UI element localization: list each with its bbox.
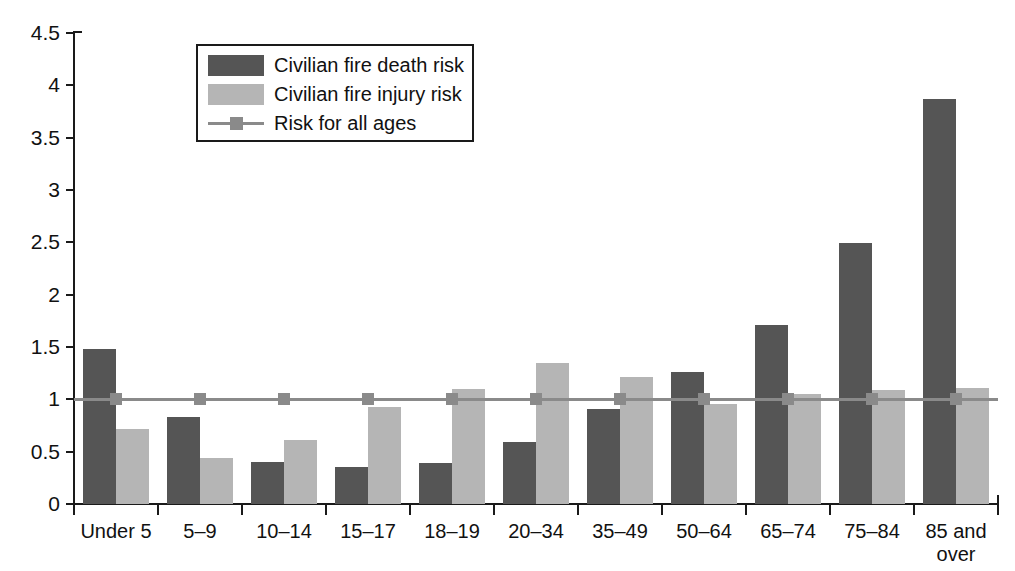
x-axis-tick <box>493 504 495 515</box>
bar-death-risk <box>251 462 284 504</box>
legend-label-all-ages: Risk for all ages <box>274 110 416 136</box>
bar-injury-risk <box>452 389 485 504</box>
x-axis-tick <box>325 504 327 515</box>
y-axis-tick-label: 4.5 <box>0 22 60 43</box>
reference-line-marker <box>362 393 374 405</box>
bar-injury-risk <box>872 390 905 504</box>
legend-label-injury-risk: Civilian fire injury risk <box>274 81 462 107</box>
reference-line-marker <box>698 393 710 405</box>
bar-injury-risk <box>284 440 317 504</box>
reference-line-marker <box>194 393 206 405</box>
bar-death-risk <box>671 372 704 504</box>
x-axis-tick <box>73 504 75 515</box>
y-axis-tick-label: 3 <box>0 179 60 200</box>
reference-line-marker <box>530 393 542 405</box>
x-axis-tick <box>997 504 999 515</box>
x-axis-category-label: 85 andover <box>904 520 1008 566</box>
legend-swatch-injury-risk <box>208 84 264 105</box>
bar-chart: 00.511.522.533.544.5 Under 55–910–1415–1… <box>0 0 1015 571</box>
legend-label-death-risk: Civilian fire death risk <box>274 52 464 78</box>
x-axis-tick <box>829 504 831 515</box>
x-axis-tick <box>157 504 159 515</box>
bar-injury-risk <box>368 407 401 504</box>
bar-injury-risk <box>788 394 821 504</box>
x-axis-tick <box>409 504 411 515</box>
reference-line-marker <box>614 393 626 405</box>
x-axis-tick <box>745 504 747 515</box>
bar-injury-risk <box>704 404 737 504</box>
bar-death-risk <box>503 442 536 504</box>
reference-line-marker <box>278 393 290 405</box>
bar-death-risk <box>335 467 368 504</box>
legend-swatch-death-risk <box>208 55 264 76</box>
bar-death-risk <box>923 99 956 504</box>
bar-death-risk <box>839 243 872 504</box>
x-axis-tick <box>241 504 243 515</box>
bar-death-risk <box>587 409 620 504</box>
y-axis-tick-label: 4 <box>0 74 60 95</box>
bar-death-risk <box>419 463 452 504</box>
reference-line-marker <box>446 393 458 405</box>
reference-line-marker <box>110 393 122 405</box>
bar-death-risk <box>167 417 200 504</box>
reference-line-marker <box>950 393 962 405</box>
y-axis-tick-label: 2 <box>0 284 60 305</box>
chart-legend: Civilian fire death risk Civilian fire i… <box>196 44 474 142</box>
y-axis-tick-label: 0 <box>0 493 60 514</box>
x-axis-tick <box>577 504 579 515</box>
bar-injury-risk <box>200 458 233 504</box>
y-axis-tick-label: 3.5 <box>0 127 60 148</box>
reference-line-marker <box>866 393 878 405</box>
y-axis-tick-label: 2.5 <box>0 231 60 252</box>
y-axis-tick-label: 1 <box>0 388 60 409</box>
bar-injury-risk <box>536 363 569 504</box>
y-axis-tick-label: 1.5 <box>0 336 60 357</box>
bar-death-risk <box>83 349 116 504</box>
x-axis-tick <box>913 504 915 515</box>
x-axis-tick <box>661 504 663 515</box>
bar-injury-risk <box>116 429 149 504</box>
reference-line-marker <box>782 393 794 405</box>
bar-death-risk <box>755 325 788 504</box>
y-axis-tick-label: 0.5 <box>0 441 60 462</box>
legend-marker-all-ages <box>230 117 243 130</box>
